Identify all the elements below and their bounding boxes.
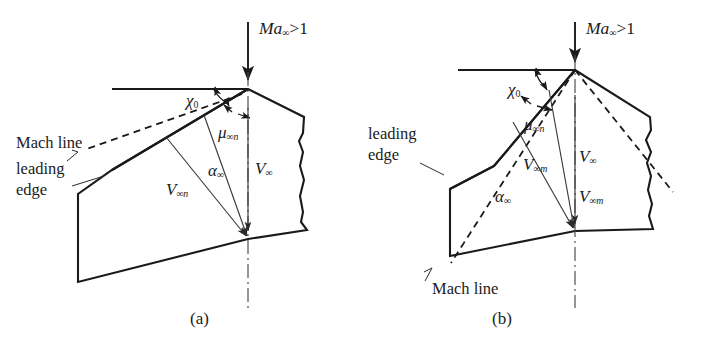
mach-angle-label-b: μ∞n <box>524 116 544 134</box>
leading-edge-label-a-line2: edge <box>16 182 47 199</box>
aoa-label-b: α∞ <box>495 188 511 206</box>
aoa-label-a: α∞ <box>208 162 224 180</box>
mu-arrow-left-a <box>224 105 232 112</box>
v-normal-label-a: V∞n <box>166 181 188 199</box>
panel-caption-b: (b) <box>492 310 512 327</box>
v-m-right-label-b: V∞m <box>579 188 603 206</box>
mach-line-label-b: Mach line <box>432 281 498 298</box>
mach-number-label-a: Ma∞>1 <box>259 20 308 38</box>
leading-edge-label-b-line1: leading <box>368 126 417 143</box>
leading-edge-label-b-line2: edge <box>368 147 399 164</box>
leading-edge-leader-b <box>420 163 444 175</box>
v-free-label-a: V∞ <box>255 160 272 178</box>
leading-edge-leader-a <box>72 176 104 186</box>
v-free-label-b: V∞ <box>579 148 596 166</box>
v-m-left-label-b: V∞m <box>523 156 547 174</box>
leading-edge-label-a-line1: leading <box>16 161 65 178</box>
diagram-svg <box>0 0 705 352</box>
leading-edge-inboard-b <box>450 166 494 189</box>
mu-arrow-left-b <box>521 96 531 104</box>
wing-planform-a <box>78 89 307 282</box>
sweep-angle-label-a: χ0 <box>186 92 198 110</box>
mach-line-leader-b <box>424 268 432 281</box>
mach-angle-label-a: μ∞n <box>218 124 238 142</box>
mach-number-label-b: Ma∞>1 <box>586 20 635 38</box>
sweep-angle-label-b: χ0 <box>508 81 520 99</box>
mach-line-label-a: Mach line <box>16 135 82 152</box>
panel-caption-a: (a) <box>190 310 209 327</box>
figure-container: Ma∞>1 χ0 μ∞n α∞ V∞ V∞n Mach line leading… <box>0 0 705 352</box>
mach-line-right-b <box>575 70 673 192</box>
